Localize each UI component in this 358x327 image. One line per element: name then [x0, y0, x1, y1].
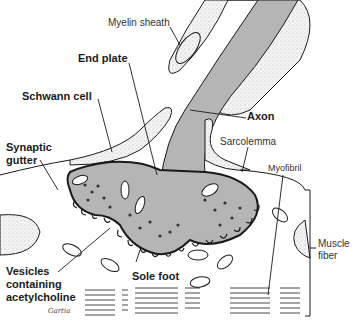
end-plate-shape: [68, 162, 258, 255]
neuromuscular-junction-diagram: Myelin sheath End plate Schwann cell Axo…: [0, 0, 358, 327]
label-axon: Axon: [247, 111, 275, 123]
label-synaptic-gutter-line2: gutter: [6, 155, 37, 167]
label-sole-foot: Sole foot: [132, 271, 179, 283]
muscle-nucleus-left: [0, 215, 40, 255]
label-muscle-fiber-line2: fiber: [318, 251, 337, 262]
label-myelin-sheath: Myelin sheath: [108, 18, 170, 29]
artist-signature: Gartia: [48, 308, 70, 315]
schwann-cell-shape: [70, 107, 172, 165]
axon-shape: [160, 0, 298, 185]
label-sarcolemma: Sarcolemma: [220, 137, 276, 148]
label-vesicles-line2: containing: [6, 279, 62, 291]
myofibril-striations: [85, 288, 300, 315]
label-end-plate: End plate: [78, 53, 128, 65]
muscle-nucleus-right: [294, 220, 310, 258]
label-muscle-fiber-line1: Muscle: [318, 239, 350, 250]
label-myofibril: Myofibril: [268, 164, 302, 173]
label-vesicles-line1: Vesicles: [6, 266, 49, 278]
label-schwann-cell: Schwann cell: [22, 91, 92, 103]
label-vesicles-line3: acetylcholine: [6, 292, 76, 304]
label-synaptic-gutter-line1: Synaptic: [6, 142, 52, 154]
